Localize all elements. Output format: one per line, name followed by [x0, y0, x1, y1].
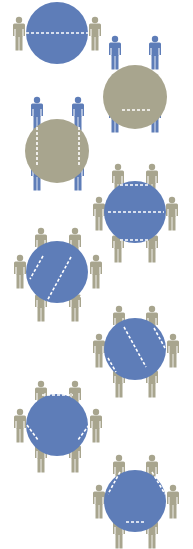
table-four-seat-vertical-split	[25, 97, 89, 191]
person-icon	[93, 334, 105, 368]
round-table	[104, 470, 166, 532]
person-icon	[109, 36, 121, 70]
person-icon	[89, 17, 101, 51]
table-six-seat-horizontal-bands	[93, 164, 178, 263]
seating-diagram	[0, 0, 193, 549]
person-icon	[90, 255, 102, 289]
round-table	[103, 65, 167, 129]
table-six-seat-triangle-bottom	[14, 381, 102, 473]
round-table	[26, 394, 88, 456]
person-icon	[93, 485, 105, 519]
table-six-seat-triangle-top	[93, 455, 179, 549]
round-table	[26, 241, 88, 303]
table-four-seat-horizontal-split	[103, 36, 167, 133]
person-icon	[167, 485, 179, 519]
person-icon	[14, 255, 26, 289]
person-icon	[90, 409, 102, 443]
person-icon	[167, 334, 179, 368]
person-icon	[13, 17, 25, 51]
person-icon	[14, 409, 26, 443]
round-table	[104, 318, 166, 380]
person-icon	[166, 197, 178, 231]
person-icon	[93, 197, 105, 231]
person-icon	[149, 36, 161, 70]
table-two-seat-split	[13, 2, 101, 64]
table-six-seat-diagonal-bands-reverse	[93, 306, 179, 398]
table-six-seat-diagonal-bands	[14, 228, 102, 322]
